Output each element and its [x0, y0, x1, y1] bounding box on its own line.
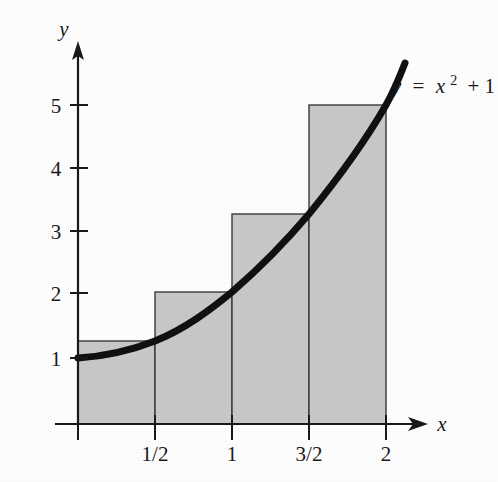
curve-label-plus-one: + 1 — [468, 74, 496, 98]
riemann-sum-figure: 5 4 3 2 1 1/2 1 3/2 2 y x y = x 2 + 1 — [0, 0, 498, 482]
curve-label-y: y — [390, 74, 402, 98]
y-axis-label: y — [57, 17, 69, 41]
curve-label-base: x — [435, 74, 446, 98]
bar-rect-2 — [155, 292, 232, 424]
x-tick-label-two: 2 — [381, 442, 392, 466]
y-tick-label-3: 3 — [51, 220, 62, 244]
y-tick-label-4: 4 — [51, 157, 62, 181]
x-axis-label: x — [436, 412, 447, 436]
y-tick-label-2: 2 — [51, 282, 62, 306]
x-tick-label-one: 1 — [227, 442, 238, 466]
x-tick-label-half: 1/2 — [142, 442, 169, 466]
curve-label-lhs: y = x 2 + 1 — [390, 66, 495, 98]
y-tick-label-1: 1 — [51, 347, 62, 371]
curve-label-exponent: 2 — [450, 73, 457, 88]
bar-rect-4 — [309, 105, 386, 424]
curve-label-equals: = — [413, 74, 425, 98]
bar-rect-3 — [232, 214, 309, 424]
curve-equation-label: y = x 2 + 1 — [390, 66, 495, 98]
chart-canvas: 5 4 3 2 1 1/2 1 3/2 2 y x y = x 2 + 1 — [0, 0, 498, 482]
y-tick-labels: 5 4 3 2 1 — [51, 94, 62, 371]
riemann-rectangles — [78, 105, 386, 424]
x-tick-labels: 1/2 1 3/2 2 — [142, 442, 392, 466]
y-tick-label-5: 5 — [51, 94, 62, 118]
x-tick-label-three-halves: 3/2 — [296, 442, 323, 466]
